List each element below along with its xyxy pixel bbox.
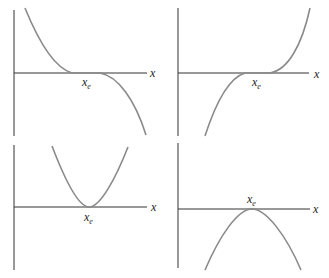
x-axis-label: x [313,67,320,81]
equilibrium-label: xe [251,75,261,91]
curve [25,8,146,135]
panel-top-right: x xe [178,8,320,136]
curve [205,8,310,136]
panel-top-left: x xe [14,8,156,136]
curve [205,209,301,270]
x-axis-label: x [149,66,156,80]
x-axis-label: x [312,202,319,216]
panel-bottom-left: x xe [14,145,157,270]
x-axis-label: x [150,200,157,214]
equilibrium-diagrams: x xe x xe x xe x xe [0,0,329,278]
equilibrium-label: xe [81,75,91,91]
curve [52,146,128,207]
panel-bottom-right: x xe [178,143,319,270]
equilibrium-label: xe [246,192,256,208]
equilibrium-label: xe [83,210,93,226]
